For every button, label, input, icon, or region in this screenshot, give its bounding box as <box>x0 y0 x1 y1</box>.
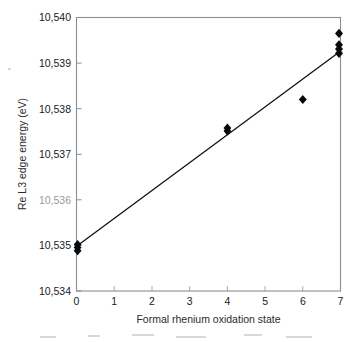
y-tick-label: 10,539 <box>39 57 71 69</box>
x-tick-label: 1 <box>111 295 117 307</box>
x-tick-label: 5 <box>262 295 268 307</box>
plot-frame <box>77 18 341 292</box>
data-point <box>335 29 343 38</box>
x-tick-label: 2 <box>149 295 155 307</box>
x-tick-label: 0 <box>74 295 80 307</box>
regression-line <box>78 52 340 246</box>
y-axis-title: Re L3 edge energy (eV) <box>16 98 28 210</box>
x-tick-label: 3 <box>187 295 193 307</box>
x-tick-label: 6 <box>300 295 306 307</box>
y-tick-label: 10,535 <box>39 239 71 251</box>
scatter-plot: 10,540 10,539 10,538 10,537 10,536 10,53… <box>0 0 361 342</box>
y-tick-labels: 10,540 10,539 10,538 10,537 10,536 10,53… <box>39 11 71 297</box>
data-point <box>299 95 307 104</box>
data-markers <box>74 29 343 256</box>
x-tickmarks <box>77 286 341 291</box>
x-axis-title: Formal rhenium oxidation state <box>136 313 280 325</box>
x-tick-label: 7 <box>338 295 344 307</box>
x-tick-label: 4 <box>224 295 230 307</box>
y-tick-label: 10,537 <box>39 148 71 160</box>
y-tick-label: 10,534 <box>39 285 71 297</box>
y-tick-label: 10,538 <box>39 103 71 115</box>
figure-container: 10,540 10,539 10,538 10,537 10,536 10,53… <box>0 0 361 342</box>
y-tick-label: 10,540 <box>39 11 71 23</box>
y-tick-label: 10,536 <box>39 194 71 206</box>
x-tick-labels: 0 1 2 3 4 5 6 7 <box>74 295 344 307</box>
